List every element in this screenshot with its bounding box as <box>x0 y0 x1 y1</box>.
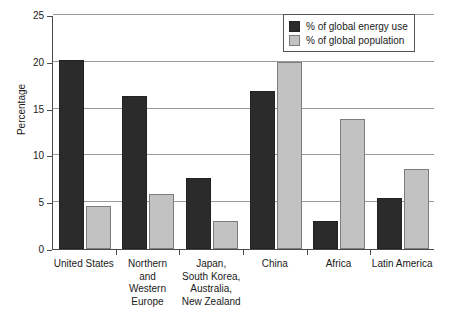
legend-item: % of global energy use <box>289 19 408 33</box>
x-axis-labels: United StatesNorthernandWesternEuropeJap… <box>52 258 434 316</box>
y-tick-label: 10 <box>33 150 44 161</box>
y-tick-label: 20 <box>33 57 44 68</box>
bar-chart-figure: Percentage 0510152025 United StatesNorth… <box>0 0 452 316</box>
x-tick-mark <box>307 250 308 255</box>
y-tick-label: 25 <box>33 10 44 21</box>
x-tick-mark <box>370 250 371 255</box>
x-tick-mark <box>243 250 244 255</box>
legend-swatch-light <box>289 35 300 46</box>
bar-population <box>404 169 429 249</box>
legend-label: % of global energy use <box>306 21 408 32</box>
x-axis-label-line: New Zealand <box>169 296 253 309</box>
legend-item: % of global population <box>289 33 408 47</box>
bar-group <box>117 16 181 249</box>
bar-energy <box>186 178 211 249</box>
bar-population <box>86 206 111 249</box>
x-axis-label-line: South Korea, <box>169 271 253 284</box>
chart-legend: % of global energy use% of global popula… <box>283 14 415 52</box>
bar-group <box>53 16 117 249</box>
y-tick-label: 15 <box>33 104 44 115</box>
legend-swatch-dark <box>289 21 300 32</box>
x-axis-label: Latin America <box>360 258 444 271</box>
y-axis-ticks: 0510152025 <box>0 16 52 250</box>
bar-population <box>149 194 174 249</box>
x-axis-label-line: Latin America <box>360 258 444 271</box>
y-tick-label: 5 <box>38 197 44 208</box>
bar-population <box>340 119 365 249</box>
x-tick-mark <box>116 250 117 255</box>
x-axis-label-line: Australia, <box>169 283 253 296</box>
y-tick-label: 0 <box>38 244 44 255</box>
bar-energy <box>377 198 402 249</box>
bar-energy <box>313 221 338 249</box>
x-tick-mark <box>179 250 180 255</box>
bar-energy <box>122 96 147 249</box>
bar-population <box>277 62 302 249</box>
bar-group <box>180 16 244 249</box>
legend-label: % of global population <box>306 35 404 46</box>
bar-energy <box>59 60 84 249</box>
bar-population <box>213 221 238 249</box>
x-axis-ticks <box>52 250 434 256</box>
bar-energy <box>250 91 275 249</box>
